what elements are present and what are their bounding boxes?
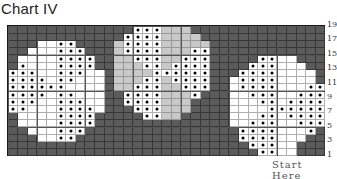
- dot-cell: [134, 106, 144, 113]
- dark-cell: [201, 106, 211, 113]
- dark-cell: [143, 149, 153, 156]
- dot-cell: [143, 56, 153, 63]
- white-cell: [95, 99, 105, 106]
- light-cell: [162, 99, 172, 106]
- white-cell: [230, 84, 240, 91]
- dark-cell: [210, 120, 220, 127]
- white-cell: [47, 41, 57, 48]
- white-cell: [76, 92, 86, 99]
- dark-cell: [210, 34, 220, 41]
- dot-cell: [28, 70, 38, 77]
- dark-cell: [124, 128, 134, 135]
- dark-cell: [306, 149, 316, 156]
- row-label: 9: [327, 93, 332, 101]
- white-cell: [297, 84, 307, 91]
- dot-cell: [57, 84, 67, 91]
- dark-cell: [105, 70, 115, 77]
- dot-cell: [258, 113, 268, 120]
- dark-cell: [249, 34, 259, 41]
- white-cell: [287, 70, 297, 77]
- dark-cell: [258, 34, 268, 41]
- dark-cell: [105, 113, 115, 120]
- dot-cell: [268, 56, 278, 63]
- dot-cell: [162, 70, 172, 77]
- dark-cell: [153, 120, 163, 127]
- white-cell: [66, 84, 76, 91]
- dot-cell: [278, 106, 288, 113]
- dot-cell: [182, 56, 192, 63]
- dark-cell: [210, 128, 220, 135]
- light-cell: [162, 48, 172, 55]
- dark-cell: [86, 34, 96, 41]
- dark-cell: [191, 113, 201, 120]
- dark-cell: [210, 27, 220, 34]
- light-cell: [143, 70, 153, 77]
- dark-cell: [95, 34, 105, 41]
- dot-cell: [172, 70, 182, 77]
- dot-cell: [268, 77, 278, 84]
- dot-cell: [38, 84, 48, 91]
- dot-cell: [249, 142, 259, 149]
- dark-cell: [57, 34, 67, 41]
- light-cell: [162, 106, 172, 113]
- light-cell: [162, 63, 172, 70]
- dark-cell: [9, 48, 19, 55]
- light-cell: [162, 113, 172, 120]
- dot-cell: [28, 77, 38, 84]
- dark-cell: [18, 142, 28, 149]
- light-cell: [182, 41, 192, 48]
- white-cell: [278, 84, 288, 91]
- dark-cell: [316, 63, 326, 70]
- dark-cell: [239, 149, 249, 156]
- dot-cell: [153, 56, 163, 63]
- dot-cell: [258, 84, 268, 91]
- dark-cell: [172, 135, 182, 142]
- dot-cell: [57, 70, 67, 77]
- dot-cell: [268, 70, 278, 77]
- dark-cell: [57, 27, 67, 34]
- dark-cell: [47, 149, 57, 156]
- dark-cell: [191, 99, 201, 106]
- dot-cell: [258, 99, 268, 106]
- dark-cell: [105, 41, 115, 48]
- dark-cell: [191, 142, 201, 149]
- dark-cell: [105, 56, 115, 63]
- dark-cell: [287, 34, 297, 41]
- light-cell: [114, 41, 124, 48]
- dark-cell: [191, 106, 201, 113]
- dark-cell: [210, 84, 220, 91]
- light-cell: [172, 113, 182, 120]
- light-cell: [172, 106, 182, 113]
- dark-cell: [287, 41, 297, 48]
- row-label: 15: [327, 50, 337, 58]
- dark-cell: [47, 142, 57, 149]
- dot-cell: [191, 48, 201, 55]
- white-cell: [28, 56, 38, 63]
- white-cell: [278, 99, 288, 106]
- dark-cell: [201, 135, 211, 142]
- dark-cell: [172, 128, 182, 135]
- dark-cell: [230, 70, 240, 77]
- dark-cell: [95, 56, 105, 63]
- dark-cell: [210, 142, 220, 149]
- light-cell: [114, 84, 124, 91]
- white-cell: [38, 135, 48, 142]
- dot-cell: [249, 77, 259, 84]
- light-cell: [114, 48, 124, 55]
- dot-cell: [182, 84, 192, 91]
- light-cell: [162, 84, 172, 91]
- light-cell: [172, 56, 182, 63]
- dark-cell: [258, 48, 268, 55]
- dark-cell: [278, 34, 288, 41]
- dark-cell: [230, 63, 240, 70]
- dark-cell: [297, 48, 307, 55]
- white-cell: [230, 77, 240, 84]
- dark-cell: [249, 56, 259, 63]
- dark-cell: [18, 149, 28, 156]
- white-cell: [86, 92, 96, 99]
- white-cell: [38, 48, 48, 55]
- dark-cell: [239, 27, 249, 34]
- dark-cell: [143, 128, 153, 135]
- dark-cell: [210, 56, 220, 63]
- dot-cell: [143, 84, 153, 91]
